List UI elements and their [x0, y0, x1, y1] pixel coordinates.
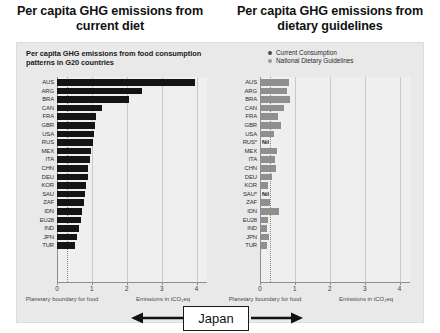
legend: Current Consumption National Dietary Gui…	[268, 50, 353, 66]
category-label: DEU	[245, 173, 257, 182]
category-label: RUS	[42, 138, 54, 147]
legend-label-current: Current Consumption	[276, 50, 337, 56]
left-axis-title: Emissions in tCO₂eq	[113, 296, 213, 303]
category-label: USA	[42, 130, 54, 139]
bar-row: BRA	[260, 95, 410, 104]
category-label: ITA	[46, 155, 54, 164]
nil-label: Nil	[262, 138, 269, 147]
bar-row: ARG	[260, 87, 410, 96]
bar-rows: AUSARGBRACANFRAGBRUSARUSMEXITACHNDEUKORS…	[57, 77, 207, 282]
right-x-axis	[260, 282, 410, 283]
category-label: GBR	[245, 121, 257, 130]
category-label: KOR	[245, 181, 257, 190]
bar	[260, 174, 272, 181]
bar-row: CHN	[260, 164, 410, 173]
category-label: EU28	[243, 216, 257, 225]
bar-row: ITA	[57, 155, 207, 164]
right-boundary-note: Planetary boundary for food	[222, 296, 308, 303]
category-label: GBR	[42, 121, 54, 130]
arrow-left-icon	[131, 312, 183, 324]
bar-row: EU28	[260, 216, 410, 225]
bar	[57, 234, 77, 241]
category-label: AUS	[245, 78, 257, 87]
bar-row: AUS	[57, 78, 207, 87]
bar	[57, 79, 195, 86]
bar-row: ITA	[260, 155, 410, 164]
category-label: TUR	[245, 241, 257, 250]
bar-row: SAU	[57, 190, 207, 199]
category-label: ITA	[249, 155, 257, 164]
bar-row: RUS*Nil	[260, 138, 410, 147]
bar	[57, 217, 81, 224]
bar	[57, 88, 142, 95]
category-label: CAN	[42, 104, 54, 113]
bar	[260, 96, 290, 103]
bar-row: JPN	[57, 233, 207, 242]
bar	[260, 148, 277, 155]
category-label: IDN	[247, 207, 257, 216]
bar	[57, 182, 86, 189]
left-panel-heading: Per capita GHG emissions from food consu…	[26, 49, 212, 68]
bar	[57, 105, 102, 112]
bar	[260, 165, 276, 172]
bar-row: ZAF	[260, 198, 410, 207]
bar	[57, 225, 79, 232]
category-label: KOR	[42, 181, 54, 190]
bar	[260, 199, 270, 206]
bar	[57, 148, 91, 155]
bar-rows: AUSARGBRACANFRAGBRUSARUS*NilMEXITACHNDEU…	[260, 77, 410, 282]
bar-row: USA	[260, 130, 410, 139]
category-label: MEX	[42, 147, 54, 156]
bar	[57, 113, 96, 120]
bar	[260, 131, 274, 138]
bar	[57, 199, 84, 206]
bar-row: SAU*Nil	[260, 190, 410, 199]
japan-callout-label: Japan	[198, 312, 233, 325]
bar-row: DEU	[260, 173, 410, 182]
x-tick-label: 4	[195, 286, 199, 292]
bar-row: TUR	[260, 241, 410, 250]
bar-row: KOR	[260, 181, 410, 190]
bar	[260, 208, 279, 215]
japan-callout-box: Japan	[183, 306, 249, 331]
category-label: BRA	[42, 95, 54, 104]
bar-row: KOR	[57, 181, 207, 190]
category-label: DEU	[42, 173, 54, 182]
bar-row: CHN	[57, 164, 207, 173]
bar	[260, 105, 284, 112]
right-title-column: Per capita GHG emissions from dietary gu…	[220, 4, 440, 34]
category-label: CHN	[42, 164, 54, 173]
bar	[260, 113, 278, 120]
figure-panel: Per capita GHG emissions from food consu…	[16, 42, 424, 323]
legend-label-guidelines: National Dietary Guidelines	[276, 58, 353, 64]
category-label: BRA	[245, 95, 257, 104]
category-label: MEX	[245, 147, 257, 156]
left-plot-area: AUSARGBRACANFRAGBRUSARUSMEXITACHNDEUKORS…	[57, 77, 207, 282]
bar	[260, 88, 287, 95]
bar-row: MEX	[57, 147, 207, 156]
bar-row: IDN	[260, 207, 410, 216]
legend-dot-current-icon	[268, 51, 272, 55]
left-x-axis	[57, 282, 207, 283]
bar-row: BRA	[57, 95, 207, 104]
bar	[260, 182, 268, 189]
bar	[57, 174, 88, 181]
category-label: SAU*	[243, 190, 257, 199]
bar-row: EU28	[57, 216, 207, 225]
bar	[57, 208, 82, 215]
bar	[57, 96, 129, 103]
category-label: ARG	[42, 87, 54, 96]
category-label: USA	[245, 130, 257, 139]
left-boundary-note: Planetary boundary for food	[19, 296, 105, 303]
x-tick-label: 1	[90, 286, 94, 292]
bar	[260, 122, 281, 129]
x-tick-label: 0	[258, 286, 262, 292]
bar	[57, 131, 94, 138]
category-label: IND	[247, 224, 257, 233]
bar	[57, 156, 90, 163]
bar-row: MEX	[260, 147, 410, 156]
category-label: ZAF	[246, 198, 257, 207]
right-axis-title: Emissions in tCO₂eq	[316, 296, 416, 303]
x-tick-label: 2	[125, 286, 129, 292]
bar	[57, 191, 85, 198]
